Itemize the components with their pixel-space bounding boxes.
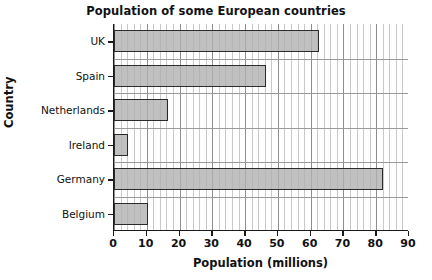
- x-axis-tick-label: 50: [262, 237, 292, 250]
- plot-area: [113, 24, 408, 231]
- x-axis-tick-label: 70: [327, 237, 357, 250]
- x-axis-tick: [342, 231, 343, 236]
- x-axis-tick-label: 80: [360, 237, 390, 250]
- y-axis-tick-label: Netherlands: [41, 104, 105, 116]
- x-axis-title: Population (millions): [113, 256, 408, 270]
- y-axis-tick: [108, 179, 113, 180]
- chart-title: Population of some European countries: [0, 4, 432, 18]
- y-axis-tick: [108, 76, 113, 77]
- bar-chart: Population of some European countries 01…: [0, 0, 432, 280]
- bar: [114, 203, 148, 225]
- x-axis-tick-label: 10: [131, 237, 161, 250]
- x-axis-tick: [179, 231, 180, 236]
- bar: [114, 168, 383, 190]
- y-axis-tick: [108, 110, 113, 111]
- x-axis-tick: [244, 231, 245, 236]
- y-axis-tick: [108, 214, 113, 215]
- x-axis-tick-label: 60: [295, 237, 325, 250]
- x-axis-tick-label: 90: [393, 237, 423, 250]
- y-axis-tick-label: Ireland: [69, 139, 105, 151]
- y-axis-tick-label: Spain: [76, 70, 105, 82]
- y-axis-tick-label: Germany: [57, 173, 105, 185]
- y-axis-tick-label: UK: [90, 35, 105, 47]
- x-axis-tick: [408, 231, 409, 236]
- x-axis-tick-label: 30: [196, 237, 226, 250]
- bar: [114, 99, 168, 121]
- bar: [114, 65, 266, 87]
- x-axis-tick: [211, 231, 212, 236]
- x-axis-tick: [310, 231, 311, 236]
- x-axis-tick-label: 20: [164, 237, 194, 250]
- bar-series: [114, 24, 408, 230]
- x-axis-tick-label: 0: [98, 237, 128, 250]
- x-axis-tick: [375, 231, 376, 236]
- y-axis-title: Country: [2, 77, 16, 128]
- y-axis-tick: [108, 41, 113, 42]
- x-axis-tick: [277, 231, 278, 236]
- x-axis-tick-label: 40: [229, 237, 259, 250]
- x-axis-tick: [146, 231, 147, 236]
- y-axis-tick: [108, 145, 113, 146]
- x-axis-tick: [113, 231, 114, 236]
- bar: [114, 30, 319, 52]
- y-axis-tick-label: Belgium: [62, 208, 105, 220]
- bar: [114, 134, 128, 156]
